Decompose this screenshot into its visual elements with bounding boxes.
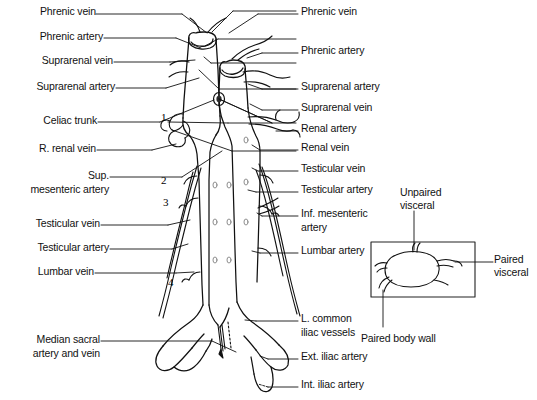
testicular-vessels-right [256,164,300,316]
label-text: artery [301,221,327,233]
numeral-text: 4 [168,276,174,288]
label-testicular-artery-right: Testicular artery [301,183,373,195]
label-text: Lumbar vein [38,265,94,277]
label-lumbar-vein: Lumbar vein [0,265,94,277]
label-phrenic-artery-left: Phrenic artery [0,30,103,42]
vessel-trunk [190,105,260,305]
inset-cross-section [371,242,475,297]
label-paired-visceral: Paired [494,253,523,265]
median-sacral-vessels [218,322,231,358]
label-sup-mesenteric-artery-line2: mesenteric artery [0,183,109,195]
label-testicular-vein-left: Testicular vein [0,217,100,229]
label-text: Testicular artery [301,183,373,195]
label-text: mesenteric artery [30,183,109,195]
numeral-text: 1 [161,111,167,123]
label-median-sacral-line2: artery and vein [0,347,100,359]
label-text: iliac vessels [301,326,355,338]
label-l-common-iliac: L. common [301,312,352,324]
label-text: Phrenic vein [40,5,96,17]
label-phrenic-vein-left: Phrenic vein [0,5,96,17]
label-text: artery and vein [33,347,100,359]
label-int-iliac-artery: Int. iliac artery [301,378,364,390]
label-suprarenal-artery-left: Suprarenal artery [0,80,115,92]
numeral-text: 3 [163,196,169,208]
phrenic-arteries [190,18,226,32]
label-text: Testicular artery [37,241,109,253]
label-r-renal-vein: R. renal vein [0,142,96,154]
label-text: Phrenic artery [40,30,103,42]
label-unpaired-visceral-line2: visceral [400,199,434,211]
label-paired-visceral-line2: visceral [494,266,528,278]
inset-leader-lines [383,211,493,327]
label-text: Celiac trunk [43,114,97,126]
label-ext-iliac-artery: Ext. iliac artery [301,350,367,362]
label-unpaired-visceral: Unpaired [400,186,441,198]
label-phrenic-artery-right: Phrenic artery [301,44,364,56]
label-text: Testicular vein [301,162,365,174]
label-renal-vein: Renal vein [301,141,349,153]
label-renal-artery: Renal artery [301,122,356,134]
label-text: Median sacral [37,333,100,345]
testicular-vessels-left [159,166,201,318]
label-text: Phrenic vein [301,5,357,17]
label-text: Lumbar artery [301,244,364,256]
label-text: Renal artery [301,122,356,134]
numeral-text: 2 [161,174,167,186]
label-l-common-iliac-line2: iliac vessels [301,326,355,338]
label-text: Phrenic artery [301,44,364,56]
label-text: Int. iliac artery [301,378,364,390]
label-text: Suprarenal vein [42,54,113,66]
label-median-sacral: Median sacral [0,333,100,345]
marker-numeral-3: 3 [163,196,169,208]
label-text: Sup. [88,169,109,181]
label-text: Paired body wall [361,332,436,344]
label-paired-body-wall: Paired body wall [361,332,436,344]
left-renal-vessels [248,110,300,137]
label-text: Testicular vein [36,217,100,229]
label-inf-mesenteric-artery: Inf. mesenteric [301,207,368,219]
leader-lines-left [168,11,296,151]
label-text: R. renal vein [39,142,96,154]
anatomy-figure: Phrenic vein Phrenic artery Suprarenal v… [0,0,537,400]
label-celiac-trunk: Celiac trunk [0,114,97,126]
label-suprarenal-artery-right: Suprarenal artery [301,80,380,92]
label-text: Suprarenal artery [301,80,380,92]
label-text: visceral [400,199,434,211]
label-phrenic-vein-right: Phrenic vein [301,5,357,17]
vertebral-markers [213,137,248,263]
label-text: Unpaired [400,186,441,198]
label-lumbar-artery: Lumbar artery [301,244,364,256]
inferior-vena-cava [183,32,221,136]
label-suprarenal-vein-right: Suprarenal vein [301,101,372,113]
label-text: Paired [494,253,523,265]
label-text: visceral [494,266,528,278]
label-text: Renal vein [301,141,349,153]
label-text: Ext. iliac artery [301,350,367,362]
label-inf-mesenteric-artery-line2: artery [301,221,327,233]
marker-numeral-2: 2 [161,174,167,186]
marker-numeral-1: 1 [161,111,167,123]
label-text: Suprarenal artery [36,80,115,92]
label-suprarenal-vein-left: Suprarenal vein [0,54,113,66]
label-text: Suprarenal vein [301,101,372,113]
label-testicular-vein-right: Testicular vein [301,162,365,174]
label-testicular-artery-left: Testicular artery [0,241,109,253]
label-text: L. common [301,312,352,324]
label-sup-mesenteric-artery: Sup. [0,169,109,181]
label-text: Inf. mesenteric [301,207,368,219]
marker-numeral-4: 4 [168,276,174,288]
